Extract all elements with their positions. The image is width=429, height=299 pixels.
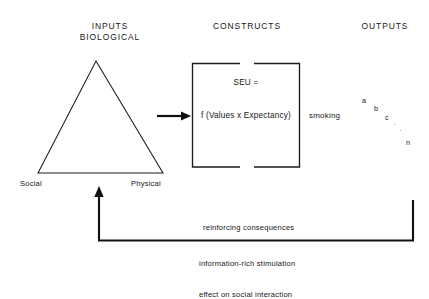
feedback-item: information-rich stimulation [199,259,295,268]
triangle-label-social: Social [20,179,42,188]
output-item-b: b [374,104,378,113]
triangle-label-physical: Physical [131,179,161,188]
feedback-loop-arrow-head [94,186,103,197]
feedback-item: effect on social interaction [199,290,295,299]
column-heading-outputs: OUTPUTS [340,21,429,32]
inputs-triangle [38,61,163,173]
constructs-formula-line-1: SEU = [192,78,300,88]
column-heading-constructs: CONSTRUCTS [192,21,302,32]
output-item-n: n [406,138,410,147]
feedback-loop-path [99,192,413,241]
output-item-c: c [385,113,389,122]
input-to-construct-arrow-head [181,112,191,121]
constructs-formula-line-2: f (Values x Expectancy) [192,111,300,121]
diagram-canvas: INPUTS BIOLOGICAL CONSTRUCTS OUTPUTS Soc… [0,0,429,299]
output-item-a: a [362,96,366,105]
behavior-label-smoking: smoking [309,111,340,121]
column-heading-inputs: INPUTS BIOLOGICAL [52,21,168,42]
feedback-title: reinforcing consequences [203,223,294,232]
feedback-item-list: information-rich stimulation effect on s… [199,240,295,299]
